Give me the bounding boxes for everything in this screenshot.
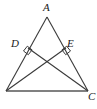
segment-cevian-CD	[28, 48, 88, 91]
vertex-label-D: D	[11, 38, 19, 49]
segment-side-AB	[6, 17, 47, 91]
geometry-figure: A D E C	[0, 0, 97, 109]
triangle-sides	[6, 17, 88, 91]
vertex-label-A: A	[43, 2, 50, 13]
segment-cevian-BE	[6, 48, 66, 91]
segment-side-AC	[47, 17, 88, 91]
vertex-label-E: E	[67, 38, 74, 49]
triangle-diagram-svg	[0, 0, 97, 109]
vertex-label-C: C	[88, 91, 95, 102]
